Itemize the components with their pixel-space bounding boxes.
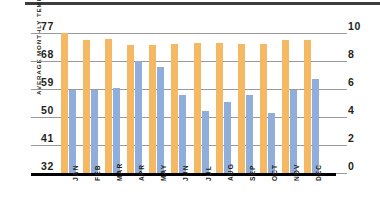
bar-temperature xyxy=(216,43,223,173)
y-axis-left-tick-label: 50 xyxy=(26,104,54,116)
y-axis-right-tick-rule xyxy=(323,117,347,118)
x-axis-tick-label: DEC xyxy=(315,147,325,181)
bar-temperature xyxy=(260,44,267,173)
bar-temperature xyxy=(171,44,178,173)
y-axis-left-tick-rule xyxy=(31,33,58,34)
y-axis-right-tick-label: 4 xyxy=(348,104,374,116)
y-axis-left-tick-label: 32 xyxy=(26,160,54,172)
y-axis-right-tick-label: 10 xyxy=(348,20,374,32)
y-axis-left-tick-label: 59 xyxy=(26,76,54,88)
x-axis-tick-label: MAR xyxy=(116,147,126,181)
x-axis-tick-label: FEB xyxy=(94,147,104,181)
x-axis-tick-label: MAY xyxy=(160,147,170,181)
y-axis-left-tick-rule xyxy=(31,145,58,146)
chart-figure: AVERAGE MONTHLY TEMPERATURE (°F) 7768595… xyxy=(0,0,380,222)
x-axis-tick-label: SEP xyxy=(249,147,259,181)
bar-temperature xyxy=(194,43,201,173)
x-axis-tick-label: APR xyxy=(138,147,148,181)
x-axis-tick-label: JAN xyxy=(72,147,82,181)
x-axis-tick-label: JUN xyxy=(182,147,192,181)
y-axis-left-tick-label: 77 xyxy=(26,20,54,32)
x-axis-tick-label: NOV xyxy=(293,147,303,181)
y-axis-right-tick-label: 2 xyxy=(348,132,374,144)
bar-temperature xyxy=(61,33,68,173)
top-rule-divider xyxy=(25,2,380,5)
bar-temperature xyxy=(83,40,90,173)
y-axis-right-tick-label: 8 xyxy=(348,48,374,60)
y-axis-right-tick-rule xyxy=(323,61,347,62)
y-axis-left-tick-rule xyxy=(31,117,58,118)
x-axis-tick-label: OCT xyxy=(271,147,281,181)
bar-temperature xyxy=(238,44,245,173)
bar-temperature xyxy=(149,45,156,173)
bar-temperature xyxy=(282,40,289,173)
y-axis-left-tick-rule xyxy=(31,89,58,90)
y-axis-left-tick-label: 68 xyxy=(26,48,54,60)
bar-temperature xyxy=(304,40,311,173)
x-axis-tick-label: JUL xyxy=(205,147,215,181)
y-axis-right-tick-label: 6 xyxy=(348,76,374,88)
x-axis-tick-label: AUG xyxy=(227,147,237,181)
y-axis-right-tick-label: 0 xyxy=(348,160,374,172)
y-axis-right-tick-rule xyxy=(323,89,347,90)
bar-temperature xyxy=(127,45,134,173)
y-axis-right-tick-rule xyxy=(323,145,347,146)
bar-temperature xyxy=(105,39,112,173)
y-axis-left-tick-rule xyxy=(31,61,58,62)
y-axis-right-tick-rule xyxy=(323,33,347,34)
y-axis-left-tick-label: 41 xyxy=(26,132,54,144)
